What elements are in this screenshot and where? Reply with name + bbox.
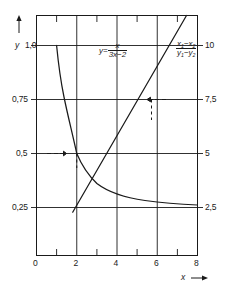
curve-formula-lhs: y= xyxy=(99,46,108,55)
line-formula-x1-sub: 1 xyxy=(181,43,184,49)
curve-formula-fraction: x3x−2 xyxy=(108,42,128,59)
line-formula-y1-sub: 1 xyxy=(181,52,184,58)
y-axis-arrow-icon xyxy=(16,15,21,33)
x-axis-label: x xyxy=(181,273,185,282)
line-formula-annotation: x1−x2y1−y2 xyxy=(176,40,196,57)
y-tick-label-0-25: 0,25 xyxy=(12,203,28,212)
marker-group-0-75 xyxy=(147,97,166,120)
y2-tick-label-5: 5 xyxy=(205,149,210,158)
curve-formula-numerator: x xyxy=(108,42,128,50)
marker-arrow-head-0-5 xyxy=(60,151,67,156)
curve-formula-denominator: 3x−2 xyxy=(108,50,128,59)
line-formula-denominator: y1−y2 xyxy=(176,48,196,57)
right-axis-ticks xyxy=(198,46,204,208)
curve-hyperbola xyxy=(57,46,198,206)
line-straight xyxy=(73,16,187,213)
y-tick-label-0-5: 0,5 xyxy=(16,149,27,158)
line-formula-numerator: x1−x2 xyxy=(176,40,196,48)
curve-formula-annotation: y=x3x−2 xyxy=(99,42,127,59)
graph-figure: y 1,0 0,75 0,5 0,25 10 7,5 5 2,5 0 2 4 6… xyxy=(0,0,243,296)
x-tick-label-4: 4 xyxy=(114,259,119,268)
line-formula-x2: −x xyxy=(184,39,193,48)
x-tick-label-6: 6 xyxy=(154,259,159,268)
y-axis-label: y xyxy=(15,41,19,50)
y2-tick-label-2-5: 2,5 xyxy=(205,203,216,212)
y2-tick-label-7-5: 7,5 xyxy=(205,95,216,104)
line-formula-fraction: x1−x2y1−y2 xyxy=(176,40,196,57)
x-axis-arrow-icon xyxy=(191,275,208,280)
left-axis-ticks xyxy=(31,46,37,208)
y-tick-label-0-75: 0,75 xyxy=(12,95,28,104)
line-formula-y2: −y xyxy=(184,48,193,57)
x-tick-label-8: 8 xyxy=(194,259,199,268)
x-tick-label-2: 2 xyxy=(74,259,79,268)
marker-arrow-head-0-75 xyxy=(147,97,153,102)
x-tick-label-0: 0 xyxy=(33,259,38,268)
y2-tick-label-10: 10 xyxy=(205,41,214,50)
y-tick-label-1-0: 1,0 xyxy=(25,41,36,50)
